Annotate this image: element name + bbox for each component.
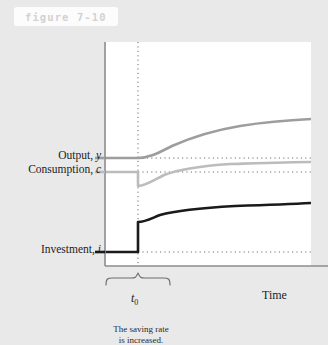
consumption-variable: c <box>96 163 101 175</box>
figure-caption: The saving rate is increased. <box>101 324 181 345</box>
shock-time-tick-label: t0 <box>131 291 138 307</box>
consumption-label-text: Consumption, <box>28 163 93 175</box>
investment-variable: i <box>98 243 101 255</box>
figure-number-label: figure 7-10 <box>14 11 107 23</box>
saving-rate-brace <box>106 273 170 285</box>
output-variable: y <box>96 149 101 161</box>
chart-figure: Output, y Consumption, c Investment, i T… <box>0 30 328 329</box>
figure-number-tab: figure 7-10 <box>14 7 118 26</box>
solow-model-transition-chart <box>0 30 328 329</box>
plot-background <box>105 42 311 266</box>
investment-label-text: Investment, <box>41 243 95 255</box>
shock-time-subscript: 0 <box>134 298 138 307</box>
consumption-axis-label: Consumption, c <box>28 163 101 175</box>
output-axis-label: Output, y <box>58 149 101 161</box>
caption-line-2: is increased. <box>101 335 181 345</box>
time-axis-label: Time <box>262 288 287 303</box>
investment-axis-label: Investment, i <box>41 243 101 255</box>
caption-line-1: The saving rate <box>101 324 181 335</box>
output-label-text: Output, <box>58 149 93 161</box>
